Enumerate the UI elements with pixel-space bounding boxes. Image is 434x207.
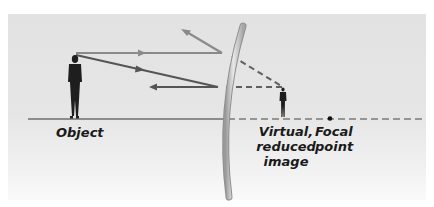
image-label-line: reduced — [254, 139, 318, 154]
image-label-line: image — [254, 154, 318, 169]
focal-label-line: Focal — [315, 124, 351, 139]
mirror-highlight — [226, 26, 243, 197]
reflected-ray-upper — [185, 31, 222, 53]
focal-label-line: point — [315, 139, 351, 154]
image-person-icon — [280, 88, 287, 118]
arrow-icon — [135, 66, 145, 73]
object-label: Object — [56, 125, 104, 140]
incident-ray-oblique — [76, 55, 218, 87]
arrow-icon — [138, 50, 146, 57]
focal-point-label: Focal point — [315, 124, 351, 154]
virtual-ray-upper — [232, 56, 283, 87]
focal-point-dot — [328, 116, 333, 121]
convex-mirror-diagram — [0, 0, 434, 207]
arrow-icon — [149, 84, 157, 91]
image-label: Virtual, reduced image — [254, 124, 318, 169]
object-person-icon — [68, 55, 82, 119]
image-label-line: Virtual, — [254, 124, 318, 139]
